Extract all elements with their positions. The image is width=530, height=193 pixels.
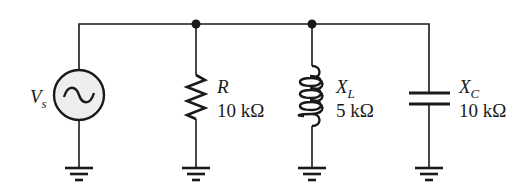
ground-icon xyxy=(298,168,326,180)
circuit-diagram: Vs R 10 kΩ XL 5 kΩ XC 10 kΩ xyxy=(0,0,530,193)
source-label: Vs xyxy=(30,86,47,111)
inductor-icon xyxy=(299,66,323,126)
resistor-symbol-label: R xyxy=(216,76,229,97)
capacitor-symbol-label: XC xyxy=(458,76,480,101)
ac-source-icon xyxy=(54,70,104,120)
resistor-value-label: 10 kΩ xyxy=(217,100,264,121)
ground-icon xyxy=(415,168,443,180)
inductor-symbol-label: XL xyxy=(335,76,355,101)
resistor-icon xyxy=(187,75,205,119)
ground-icon xyxy=(65,168,93,180)
capacitor-value-label: 10 kΩ xyxy=(459,100,506,121)
top-bus-wire xyxy=(79,24,429,93)
ground-icon xyxy=(182,168,210,180)
capacitor-icon xyxy=(409,93,450,104)
inductor-value-label: 5 kΩ xyxy=(336,100,374,121)
